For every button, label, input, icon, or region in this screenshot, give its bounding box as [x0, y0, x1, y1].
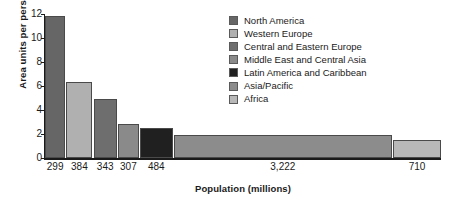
- x-tick-label: 710: [393, 161, 441, 172]
- bar: [393, 140, 441, 158]
- bar: [94, 99, 117, 158]
- legend-item-label: Middle East and Central Asia: [244, 55, 366, 65]
- bar: [174, 135, 392, 158]
- y-tick-label: 4: [24, 105, 42, 115]
- bar: [140, 128, 173, 158]
- x-tick-label: 384: [66, 161, 92, 172]
- y-tick-label: 6: [24, 81, 42, 91]
- legend-item-label: North America: [244, 16, 304, 26]
- legend-color-swatch: [229, 29, 238, 38]
- y-axis-tick-labels: 024681012: [22, 0, 42, 207]
- legend-item: Middle East and Central Asia: [229, 53, 444, 66]
- x-axis-title: Population (millions): [45, 183, 441, 194]
- y-tick-label: 12: [24, 9, 42, 19]
- legend-color-swatch: [229, 68, 238, 77]
- y-tick-label: 10: [24, 33, 42, 43]
- bar: [66, 82, 92, 158]
- y-tick-label: 8: [24, 57, 42, 67]
- x-tick-label: 343: [94, 161, 117, 172]
- legend-item-label: Central and Eastern Europe: [244, 42, 362, 52]
- legend-item: Asia/Pacific: [229, 79, 444, 92]
- y-tick-label: 0: [24, 153, 42, 163]
- legend-color-swatch: [229, 42, 238, 51]
- y-tick-mark: [41, 14, 45, 15]
- legend-item: Western Europe: [229, 27, 444, 40]
- legend-item-label: Latin America and Caribbean: [244, 68, 367, 78]
- legend-color-swatch: [229, 16, 238, 25]
- legend-item-label: Western Europe: [244, 29, 312, 39]
- x-tick-label: 299: [45, 161, 65, 172]
- bar: [45, 16, 65, 158]
- legend-color-swatch: [229, 82, 238, 91]
- legend-item: North America: [229, 14, 444, 27]
- legend-item-label: Asia/Pacific: [244, 81, 293, 91]
- legend-item-label: Africa: [244, 94, 268, 104]
- legend-item: Africa: [229, 93, 444, 106]
- y-tick-label: 2: [24, 129, 42, 139]
- bar-chart: Area units per person 024681012 Populati…: [0, 0, 451, 207]
- chart-legend: North AmericaWestern EuropeCentral and E…: [229, 14, 444, 106]
- x-tick-label: 484: [140, 161, 173, 172]
- bar: [118, 124, 139, 158]
- x-tick-label: 3,222: [174, 161, 392, 172]
- legend-color-swatch: [229, 95, 238, 104]
- legend-item: Latin America and Caribbean: [229, 66, 444, 79]
- legend-color-swatch: [229, 55, 238, 64]
- x-tick-label: 307: [118, 161, 139, 172]
- y-tick-mark: [41, 158, 45, 159]
- legend-item: Central and Eastern Europe: [229, 40, 444, 53]
- x-axis-line: [44, 158, 442, 160]
